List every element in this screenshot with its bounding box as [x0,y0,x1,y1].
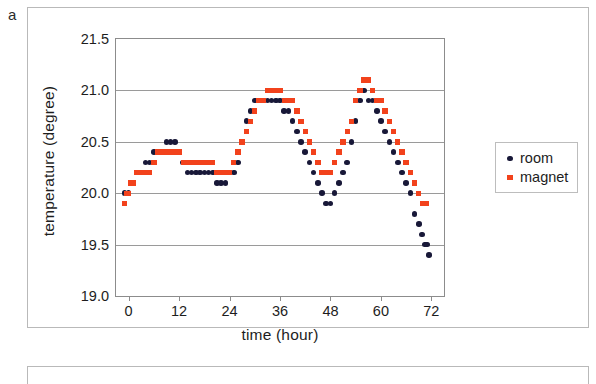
data-point-room [403,180,409,186]
data-point-magnet [399,149,404,154]
data-point-room [349,139,355,145]
data-point-magnet [332,160,337,165]
data-point-magnet [370,88,375,93]
data-point-magnet [231,160,236,165]
data-point-magnet [424,201,429,206]
x-tick-label: 72 [423,303,439,319]
data-point-room [223,180,229,186]
x-tick [230,296,231,301]
data-point-room [315,180,321,186]
data-point-magnet [349,119,354,124]
data-point-magnet [260,98,265,103]
data-point-room [302,149,308,155]
data-point-magnet [126,191,131,196]
x-tick [330,296,331,301]
data-point-magnet [382,108,387,113]
data-point-room [286,108,292,114]
x-tick-label: 12 [171,303,187,319]
data-point-room [328,201,334,207]
data-point-magnet [252,108,257,113]
data-point-room [311,170,317,176]
y-tick-label: 21.0 [81,82,109,98]
data-point-magnet [210,160,215,165]
data-point-room [332,190,338,196]
data-point-magnet [176,149,181,154]
data-point-magnet [353,98,358,103]
data-point-room [408,190,414,196]
data-point-magnet [357,88,362,93]
legend-label: room [520,150,553,166]
circle-icon [503,149,517,167]
y-axis-title: temperature (degree) [40,46,58,276]
data-point-room [378,118,384,124]
data-point-magnet [378,98,383,103]
x-tick [280,296,281,301]
data-point-magnet [408,170,413,175]
plot-area: 19.019.520.020.521.021.50122436486072 [115,38,445,297]
data-point-magnet [227,170,232,175]
data-point-magnet [340,139,345,144]
data-point-magnet [311,149,316,154]
data-point-magnet [391,129,396,134]
legend-item-magnet: magnet [503,167,568,186]
data-point-room [424,242,430,248]
x-tick [381,296,382,301]
data-point-magnet [294,108,299,113]
data-point-room [290,118,296,124]
data-point-magnet [239,139,244,144]
data-point-room [294,129,300,135]
data-point-room [426,252,432,258]
data-point-room [391,149,397,155]
x-tick-label: 36 [272,303,288,319]
data-point-room [340,170,346,176]
data-point-magnet [345,129,350,134]
gridline [116,245,444,246]
x-tick [431,296,432,301]
gridline [116,193,444,194]
data-point-room [412,211,418,217]
data-point-magnet [412,180,417,185]
chart-legend: room magnet [495,142,578,193]
y-tick-label: 19.0 [81,288,109,304]
x-tick [129,296,130,301]
data-point-magnet [328,170,333,175]
data-point-magnet [307,139,312,144]
y-tick-label: 19.5 [81,237,109,253]
data-point-magnet [235,149,240,154]
data-point-magnet [290,98,295,103]
y-tick-label: 20.5 [81,134,109,150]
data-point-room [399,170,405,176]
data-point-room [416,221,422,227]
y-tick-label: 21.5 [81,31,109,47]
panel-label: a [8,6,16,23]
figure-border-next-panel [27,366,589,384]
data-point-room [307,160,313,166]
legend-label: magnet [520,169,568,185]
data-point-magnet [151,160,156,165]
square-icon [503,168,517,186]
data-point-magnet [315,160,320,165]
data-point-magnet [248,119,253,124]
x-axis-title: time (hour) [115,326,445,344]
data-point-magnet [403,160,408,165]
data-point-room [395,160,401,166]
x-tick-label: 48 [322,303,338,319]
legend-item-room: room [503,148,568,167]
x-tick-label: 60 [373,303,389,319]
data-point-magnet [366,77,371,82]
x-tick-label: 0 [125,303,133,319]
data-point-magnet [244,129,249,134]
y-tick-label: 20.0 [81,185,109,201]
x-tick [179,296,180,301]
data-point-magnet [336,149,341,154]
data-point-room [344,160,350,166]
data-point-room [336,180,342,186]
data-point-magnet [416,191,421,196]
data-point-room [419,232,425,238]
data-point-magnet [395,139,400,144]
data-point-magnet [130,180,135,185]
data-point-magnet [122,201,127,206]
data-point-room [298,139,304,145]
data-point-magnet [298,119,303,124]
x-tick-label: 24 [221,303,237,319]
